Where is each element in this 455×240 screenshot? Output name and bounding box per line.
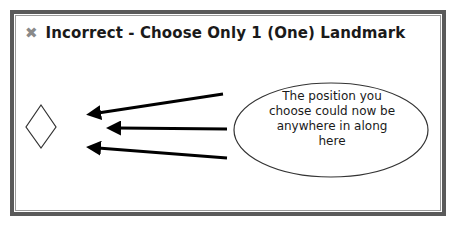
callout-line: anywhere in along xyxy=(262,119,402,134)
arrow-middle xyxy=(118,128,227,129)
callout-text: The position you choose could now be any… xyxy=(262,89,402,149)
landmark-diamond[interactable] xyxy=(26,105,56,148)
callout-line: choose could now be xyxy=(262,104,402,119)
arrow-bottom xyxy=(98,148,227,158)
arrow-top xyxy=(98,94,223,113)
callout-line: The position you xyxy=(262,89,402,104)
callout-line: here xyxy=(262,134,402,149)
